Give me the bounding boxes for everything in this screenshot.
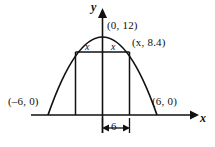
- right-root-coordinate-label: (6, 0): [152, 96, 177, 107]
- half-width-left-label: x: [85, 42, 90, 52]
- y-axis-arrowhead: [98, 8, 107, 18]
- width-dimension-label: 6: [111, 121, 117, 132]
- x-axis-label: x: [200, 112, 206, 124]
- curve-point-coordinate-label: (x, 8.4): [132, 37, 166, 48]
- x-axis-arrowhead: [190, 111, 199, 120]
- half-width-right-label: x: [111, 42, 116, 52]
- vertex-coordinate-label: (0, 12): [107, 20, 138, 31]
- y-axis-label: y: [91, 1, 97, 13]
- left-root-coordinate-label: (–6, 0): [8, 96, 39, 107]
- parabola-rectangle-figure: y x (0, 12) (x, 8.4) (–6, 0) (6, 0) x x …: [0, 0, 215, 147]
